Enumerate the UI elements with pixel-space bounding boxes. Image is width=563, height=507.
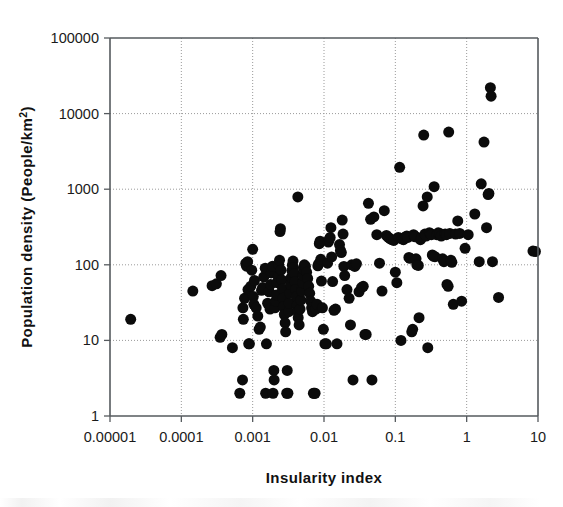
data-point [487, 256, 498, 267]
y-tick-label: 1000 [67, 181, 99, 197]
data-point [216, 270, 227, 281]
data-point [326, 251, 337, 262]
data-point [317, 302, 328, 313]
data-point [187, 286, 198, 297]
data-point [330, 304, 341, 315]
y-axis-title-main: Population density (People/km [18, 118, 35, 348]
data-point [374, 258, 385, 269]
data-point [361, 329, 372, 340]
data-point [395, 335, 406, 346]
x-tick-label: 1 [463, 429, 471, 445]
data-point [292, 191, 303, 202]
data-point [429, 181, 440, 192]
data-point [413, 260, 424, 271]
y-tick-label: 100 [75, 257, 99, 273]
data-point [125, 314, 136, 325]
data-point [316, 276, 327, 287]
data-point [486, 91, 497, 102]
data-point [234, 388, 245, 399]
data-point [476, 178, 487, 189]
data-point [463, 229, 474, 240]
data-point [446, 257, 457, 268]
data-point [474, 256, 485, 267]
data-point [321, 338, 332, 349]
data-point [268, 365, 279, 376]
data-point [237, 302, 248, 313]
data-point [530, 246, 541, 257]
x-tick-label: 10 [530, 429, 546, 445]
data-point [327, 276, 338, 287]
data-point [338, 229, 349, 240]
data-point [276, 265, 287, 276]
data-point [394, 162, 405, 173]
data-point [246, 265, 257, 276]
data-point [282, 365, 293, 376]
data-point [238, 314, 249, 325]
data-point [407, 324, 418, 335]
data-point [479, 137, 490, 148]
data-point [247, 244, 258, 255]
x-tick-label: 0.0001 [159, 429, 203, 445]
data-point [390, 267, 401, 278]
data-point [318, 324, 329, 335]
data-point [418, 130, 429, 141]
data-point [379, 205, 390, 216]
x-tick-label: 0.1 [385, 429, 405, 445]
data-point [237, 374, 248, 385]
data-point [443, 127, 454, 138]
data-point [344, 293, 355, 304]
data-point [469, 208, 480, 219]
data-point [274, 255, 285, 266]
data-point [481, 222, 492, 233]
data-point [452, 215, 463, 226]
y-tick-label: 1 [91, 408, 99, 424]
data-point [358, 281, 369, 292]
y-axis-tick-labels: 110100100010000100000 [51, 30, 99, 424]
data-point [280, 326, 291, 337]
y-tick-label: 10000 [59, 106, 99, 122]
data-point [227, 342, 238, 353]
data-point [368, 211, 379, 222]
data-point [422, 342, 433, 353]
x-tick-label: 0.01 [310, 429, 338, 445]
x-axis-ticks [110, 416, 538, 422]
data-point [371, 229, 382, 240]
data-point [363, 198, 374, 209]
data-point [252, 311, 263, 322]
data-point [391, 277, 402, 288]
data-point [351, 258, 362, 269]
data-point [216, 329, 227, 340]
data-point [325, 222, 336, 233]
data-point [336, 247, 347, 258]
data-point [414, 312, 425, 323]
data-point [493, 292, 504, 303]
data-point [483, 188, 494, 199]
y-axis-title-tail: ) [18, 106, 35, 111]
data-point [460, 243, 471, 254]
data-point [268, 388, 279, 399]
data-point [310, 388, 321, 399]
y-axis-ticks [104, 38, 110, 416]
data-point [376, 286, 387, 297]
data-point [255, 322, 266, 333]
data-point [339, 270, 350, 281]
y-tick-label: 100000 [51, 30, 99, 46]
x-axis-title: Insularity index [266, 469, 383, 486]
x-axis-tick-labels: 0.000010.00010.0010.010.1110 [84, 429, 546, 445]
data-point [366, 374, 377, 385]
data-point [294, 319, 305, 330]
data-point [345, 319, 356, 330]
data-point [443, 281, 454, 292]
data-point [275, 223, 286, 234]
data-point [337, 215, 348, 226]
data-point [269, 374, 280, 385]
data-point [325, 232, 336, 243]
data-point [282, 388, 293, 399]
data-point [348, 374, 359, 385]
data-point [244, 338, 255, 349]
data-point [261, 338, 272, 349]
y-tick-label: 10 [83, 332, 99, 348]
figure-container: 0.000010.00010.0010.010.1110 11010010001… [0, 0, 563, 507]
scatter-plot: 0.000010.00010.0010.010.1110 11010010001… [0, 0, 563, 507]
data-point [422, 191, 433, 202]
